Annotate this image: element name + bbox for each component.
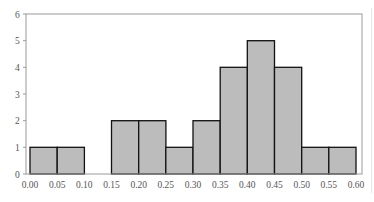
- x-tick-label: 0.25: [157, 180, 174, 190]
- histogram-bar: [329, 147, 356, 174]
- y-tick-label: 1: [15, 143, 20, 153]
- histogram-bar: [247, 41, 274, 174]
- y-tick-label: 6: [15, 10, 20, 20]
- x-tick-label: 0.20: [130, 180, 147, 190]
- y-tick-label: 3: [15, 90, 20, 100]
- edge-divider: [371, 8, 372, 193]
- histogram-chart: 0123456 0.000.050.100.150.200.250.300.35…: [0, 0, 374, 202]
- histogram-bar: [57, 147, 84, 174]
- x-tick-label: 0.15: [103, 180, 120, 190]
- x-tick-label: 0.60: [348, 180, 365, 190]
- x-tick-label: 0.40: [239, 180, 256, 190]
- x-tick-label: 0.45: [266, 180, 283, 190]
- x-axis: 0.000.050.100.150.200.250.300.350.400.45…: [22, 180, 365, 190]
- x-tick-label: 0.50: [293, 180, 310, 190]
- y-tick-label: 0: [15, 170, 20, 180]
- y-tick-label: 4: [15, 63, 20, 73]
- histogram-bar: [220, 67, 247, 174]
- x-tick-label: 0.05: [49, 180, 66, 190]
- x-tick-label: 0.55: [320, 180, 337, 190]
- x-tick-label: 0.30: [185, 180, 202, 190]
- histogram-bars: [30, 41, 356, 174]
- histogram-bar: [139, 121, 166, 174]
- histogram-bar: [302, 147, 329, 174]
- x-tick-label: 0.00: [22, 180, 39, 190]
- x-tick-label: 0.35: [212, 180, 229, 190]
- histogram-bar: [275, 67, 302, 174]
- y-tick-label: 2: [15, 116, 20, 126]
- histogram-bar: [112, 121, 139, 174]
- histogram-bar: [193, 121, 220, 174]
- x-tick-label: 0.10: [76, 180, 93, 190]
- y-axis: 0123456: [15, 10, 26, 180]
- histogram-bar: [30, 147, 57, 174]
- histogram-bar: [166, 147, 193, 174]
- y-tick-label: 5: [15, 36, 20, 46]
